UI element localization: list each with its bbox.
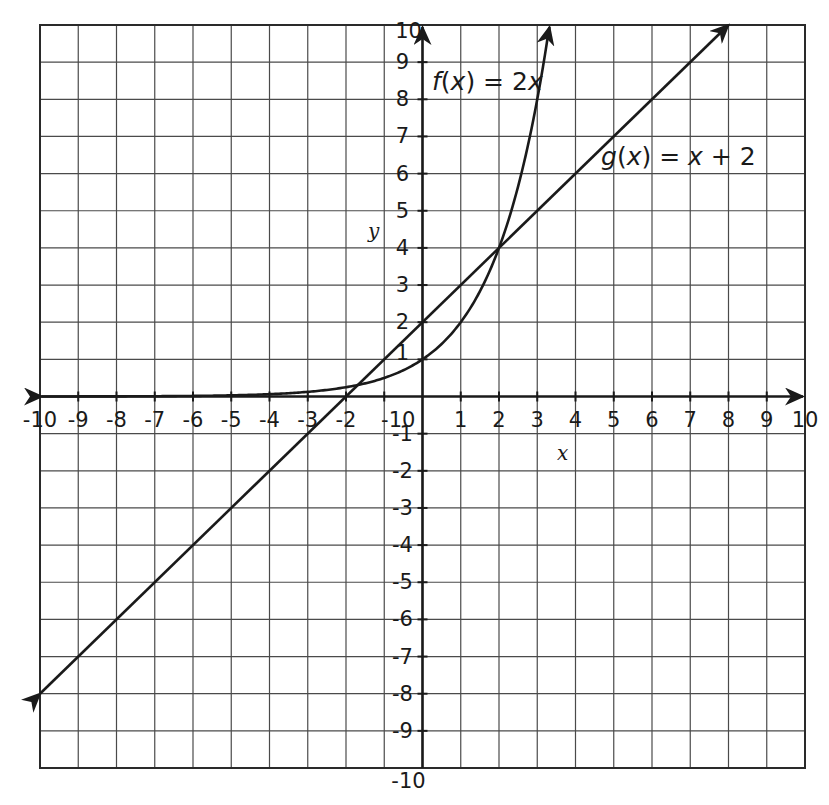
y-tick-label: 4 xyxy=(396,236,409,260)
f-var: x xyxy=(450,67,466,96)
x-tick-label: 2 xyxy=(492,408,505,432)
y-tick-label: -4 xyxy=(392,533,413,557)
y-tick-label: 10 xyxy=(395,19,422,43)
x-tick-label: 3 xyxy=(531,408,544,432)
y-tick-label: 9 xyxy=(396,50,409,74)
f-tail: x xyxy=(527,67,543,96)
f-open: ( xyxy=(441,67,451,96)
g-tail: + 2 xyxy=(703,142,756,171)
x-tick-label: 4 xyxy=(569,408,582,432)
x-tick-label: -4 xyxy=(259,408,280,432)
y-tick-label: -1 xyxy=(392,422,413,446)
y-axis-label: y xyxy=(367,219,380,243)
y-tick-label: 7 xyxy=(396,124,409,148)
x-tick-label: -8 xyxy=(106,408,127,432)
y-tick-label: -9 xyxy=(392,719,413,743)
x-tick-label: -6 xyxy=(183,408,204,432)
g-var2: x xyxy=(687,142,703,171)
g-open: ( xyxy=(617,142,627,171)
x-tick-label: 7 xyxy=(684,408,697,432)
f-function-label: f(x) = 2x xyxy=(432,67,543,96)
f-rest: ) = 2 xyxy=(465,67,528,96)
y-tick-label: 8 xyxy=(396,87,409,111)
coordinate-plane-chart: -10-9-8-7-6-5-4-3-2-1012345678910 109876… xyxy=(0,0,829,805)
x-tick-label: 5 xyxy=(607,408,620,432)
y-tick-label: -5 xyxy=(392,570,413,594)
x-tick-label: -7 xyxy=(144,408,165,432)
g-rest: ) = xyxy=(641,142,688,171)
y-tick-label: 3 xyxy=(396,273,409,297)
y-tick-label: -2 xyxy=(392,459,413,483)
y-tick-label: -7 xyxy=(392,645,413,669)
y-tick-label: 5 xyxy=(396,199,409,223)
g-name: g xyxy=(601,142,617,171)
x-tick-label: -2 xyxy=(336,408,357,432)
y-tick-label: 6 xyxy=(396,162,409,186)
x-tick-label: -9 xyxy=(68,408,89,432)
g-var: x xyxy=(626,142,642,171)
y-tick-label: -10 xyxy=(391,769,425,793)
x-tick-label: 6 xyxy=(645,408,658,432)
x-tick-label: -10 xyxy=(23,408,57,432)
x-tick-label: 10 xyxy=(792,408,819,432)
y-tick-label: -6 xyxy=(392,607,413,631)
x-tick-label: 1 xyxy=(454,408,467,432)
x-tick-label: -5 xyxy=(221,408,242,432)
y-tick-labels: 10987654321-1-2-3-4-5-6-7-8-9-10 xyxy=(391,19,425,793)
x-tick-labels: -10-9-8-7-6-5-4-3-2-1012345678910 xyxy=(23,408,819,432)
y-tick-label: -8 xyxy=(392,682,413,706)
x-tick-label: 9 xyxy=(760,408,773,432)
y-tick-label: -3 xyxy=(392,496,413,520)
x-axis-label: x xyxy=(557,441,568,465)
y-tick-label: 2 xyxy=(396,310,409,334)
g-function-label: g(x) = x + 2 xyxy=(601,142,756,171)
x-tick-label: 8 xyxy=(722,408,735,432)
